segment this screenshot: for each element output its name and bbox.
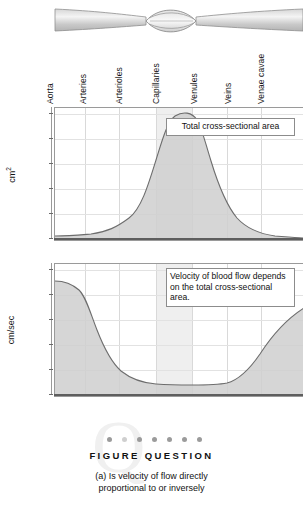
y-tick-mark-7 <box>49 369 53 370</box>
blood-vessel-schematic <box>0 0 303 42</box>
vessel-right-trunk <box>196 9 303 31</box>
category-label-capillaries: Capillaries <box>151 63 161 104</box>
category-label-row: Aorta Arteries Arterioles Capillaries Ve… <box>0 42 303 106</box>
category-label-arterioles: Arterioles <box>114 67 124 104</box>
vessel-svg <box>0 0 303 42</box>
y-tick-mark-1000 <box>49 213 53 214</box>
y-axis-line-velocity <box>51 263 52 394</box>
y-tick-mark-3000 <box>49 163 53 164</box>
callout-velocity-of-blood-flow: Velocity of blood flow depends on the to… <box>166 268 295 307</box>
figure-question-body: (a) Is velocity of flow directly proport… <box>0 470 303 494</box>
figure-root: Aorta Arteries Arterioles Capillaries Ve… <box>0 0 303 509</box>
chart-total-cross-sectional-area: cm2 5000 4000 3000 2000 1000 0 <box>0 106 303 248</box>
y-axis-label-area: cm2 <box>5 155 17 195</box>
category-label-aorta: Aorta <box>45 83 55 104</box>
figure-question-dot <box>182 437 187 442</box>
y-tick-mark-28 <box>49 294 53 295</box>
y-tick-mark-0 <box>49 238 53 239</box>
category-label-venules: Venules <box>189 73 199 104</box>
figure-question-line-2: proportional to or inversely <box>0 482 303 494</box>
figure-question-line-1: (a) Is velocity of flow directly <box>0 470 303 482</box>
y-axis-line-area <box>51 107 52 238</box>
figure-question-dot <box>152 437 157 442</box>
figure-question-dot <box>137 437 142 442</box>
y-axis-label-velocity: cm/sec <box>6 310 16 350</box>
y-tick-mark-5000 <box>49 113 53 114</box>
figure-question-dot-row <box>107 437 202 442</box>
figure-question-dot <box>122 437 127 442</box>
figure-question-dot <box>197 437 202 442</box>
figure-question-dot <box>167 437 172 442</box>
y-tick-mark-2000 <box>49 188 53 189</box>
category-label-veins: Veins <box>223 83 233 104</box>
chart-velocity-of-blood-flow: cm/sec 35 28 21 14 7 0 <box>0 262 303 404</box>
y-tick-mark-14 <box>49 344 53 345</box>
y-tick-mark-21 <box>49 319 53 320</box>
x-axis-baseline-area <box>54 238 303 240</box>
vessel-left-trunk <box>55 9 146 31</box>
category-label-arteries: Arteries <box>78 74 88 104</box>
figure-question-dot <box>107 437 112 442</box>
figure-question-title: FIGURE QUESTION <box>0 450 303 461</box>
callout-total-cross-sectional-area: Total cross-sectional area <box>166 118 295 136</box>
y-tick-mark-4000 <box>49 138 53 139</box>
category-label-venae-cavae: Venae cavae <box>256 54 266 104</box>
x-axis-baseline-velocity <box>54 394 303 396</box>
figure-question-block: Q FIGURE QUESTION (a) Is velocity of flo… <box>0 410 303 509</box>
y-tick-mark-0v <box>49 394 53 395</box>
y-tick-mark-35 <box>49 269 53 270</box>
